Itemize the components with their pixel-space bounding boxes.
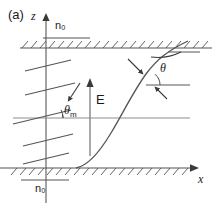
tangent-indicator-arc: [151, 52, 181, 57]
theta-m-arc-2: [61, 110, 63, 118]
diagram-canvas: [0, 0, 212, 203]
theta-label: θ: [160, 62, 166, 74]
director-tilt-profile-curve: [76, 41, 188, 168]
bottom-anchoring-label: n₀: [35, 183, 46, 194]
theta-arc: [155, 74, 160, 85]
theta-m-pointer: [69, 83, 80, 100]
x-axis-arrowhead: [190, 164, 199, 172]
pointer-arrows: [69, 59, 167, 100]
figure-panel-a: (a) z x n₀ n₀ E θm θ: [0, 0, 212, 203]
top-anchoring-label: n₀: [55, 20, 66, 31]
z-axis-arrowhead: [42, 13, 49, 21]
theta-m-subscript: m: [70, 110, 77, 119]
electric-field-label: E: [96, 93, 105, 106]
theta-symbol: θ: [160, 61, 166, 75]
x-axis-label: x: [198, 173, 203, 185]
top-substrate-boundary: [20, 41, 212, 48]
x-axis: [0, 164, 199, 172]
electric-field-arrow: [86, 78, 93, 156]
z-axis-label: z: [31, 10, 36, 22]
bottom-anchoring-text: n₀: [35, 182, 46, 194]
bottom-substrate-boundary: [11, 168, 188, 175]
theta-lower-pointer: [156, 88, 167, 99]
theta-upper-pointer: [128, 59, 142, 73]
theta-m-label: θm: [64, 104, 77, 119]
panel-label: (a): [8, 8, 24, 21]
top-anchoring-text: n₀: [55, 19, 66, 31]
